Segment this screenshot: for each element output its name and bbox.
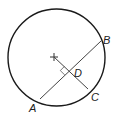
label-c: C bbox=[91, 91, 99, 103]
label-a: A bbox=[28, 102, 36, 114]
circle-chord-diagram: B D A C bbox=[0, 0, 115, 116]
label-d: D bbox=[74, 67, 82, 79]
radius-oc bbox=[54, 57, 88, 89]
label-b: B bbox=[103, 34, 110, 46]
right-angle-marker bbox=[60, 66, 65, 75]
